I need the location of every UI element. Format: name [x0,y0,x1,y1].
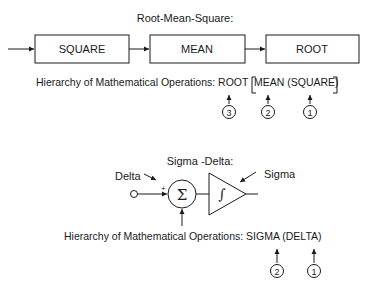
sigma-icon: Σ [177,186,188,204]
svg-text:MEAN: MEAN [181,43,213,55]
input-terminal-icon [131,191,138,198]
svg-text:2: 2 [265,108,270,118]
rms-marker-3: 3 [223,95,236,119]
sd-marker-2: 2 [271,249,284,278]
integrator-block: ∫ [209,173,246,215]
block-square: SQUARE [35,35,129,63]
summing-junction: Σ [168,180,196,208]
sigma-delta-title: Sigma -Delta: [167,155,234,167]
rms-marker-1: 1 [304,95,317,119]
svg-text:1: 1 [307,108,312,118]
sigma-delta-hierarchy: Hierarchy of Mathematical Operations: SI… [64,230,322,242]
rms-hierarchy: Hierarchy of Mathematical Operations: RO… [36,76,339,93]
rms-title: Root-Mean-Square: [137,12,234,24]
svg-text:2: 2 [274,267,279,277]
svg-text:Hierarchy of Mathematical Oper: Hierarchy of Mathematical Operations: RO… [36,76,249,88]
svg-text:ROOT: ROOT [296,43,328,55]
sd-marker-1: 1 [308,249,321,278]
block-root: ROOT [266,35,359,63]
svg-text:3: 3 [226,108,231,118]
svg-text:1: 1 [311,267,316,277]
delta-pointer-arrow [144,174,156,180]
plus-sign: + [161,184,166,193]
svg-text:MEAN (SQUARE): MEAN (SQUARE) [254,76,339,88]
integral-icon: ∫ [218,186,225,202]
rms-marker-2: 2 [262,95,275,119]
sigma-pointer-arrow [240,172,256,182]
delta-label: Delta [115,170,142,182]
diagram-canvas: Root-Mean-Square: SQUARE MEAN ROOT Hiera… [0,0,371,288]
svg-text:SQUARE: SQUARE [59,43,105,55]
sigma-label: Sigma [264,168,296,180]
block-mean: MEAN [150,35,245,63]
